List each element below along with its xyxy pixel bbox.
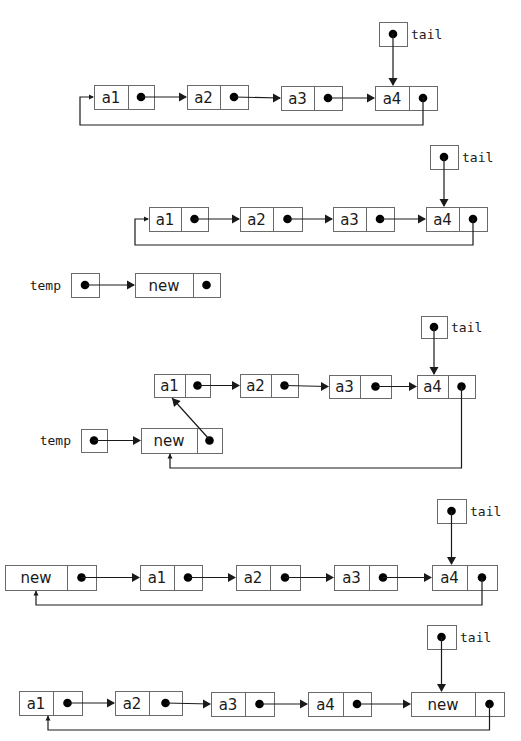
arrowhead-icon — [228, 573, 236, 582]
arrowhead-icon — [430, 367, 439, 375]
linked-list-diagram-canvas: a1a2a3a4taila1a2a3a4newtailtempa1a2a3a4n… — [0, 0, 521, 741]
arrowhead-icon — [168, 454, 173, 459]
node-data-label: a1 — [160, 377, 179, 395]
list-node-a4: a4 — [418, 375, 476, 399]
arrowhead-icon — [232, 215, 240, 224]
node-data-label: a3 — [335, 378, 354, 396]
node-data-label: new — [20, 569, 51, 587]
node-data-label: a1 — [102, 89, 121, 107]
node-data-label: a2 — [244, 569, 263, 587]
node-data-label: new — [148, 277, 179, 295]
arrowhead-icon — [144, 217, 149, 222]
node-data-label: a2 — [246, 377, 265, 395]
tail-pointer: tail — [380, 23, 443, 87]
arrowhead-icon — [403, 700, 411, 709]
arrowhead-icon — [107, 699, 115, 708]
node-data-label: a3 — [219, 696, 238, 714]
arrowhead-icon — [326, 573, 334, 582]
node-data-label: a1 — [156, 211, 175, 229]
tail-label: tail — [470, 504, 501, 519]
node-data-label: a1 — [27, 695, 46, 713]
list-node-new: new — [412, 692, 505, 717]
tail-pointer: tail — [431, 146, 494, 208]
node-data-label: a3 — [342, 569, 361, 587]
diagram-step2-create-temp: a1a2a3a4newtailtemp — [30, 146, 494, 298]
temp-pointer: temp — [30, 274, 135, 298]
node-data-label: a4 — [433, 211, 452, 229]
arrowhead-icon — [179, 93, 187, 102]
node-data-label: a4 — [440, 569, 459, 587]
arrowhead-icon — [132, 573, 140, 582]
arrowhead-icon — [409, 382, 417, 391]
node-data-label: a3 — [340, 211, 359, 229]
node-data-label: a2 — [247, 211, 266, 229]
list-node-new: new — [142, 428, 223, 454]
arrowhead-icon — [89, 95, 94, 100]
node-data-label: new — [153, 432, 184, 450]
arrowhead-icon — [46, 716, 51, 721]
tail-label: tail — [462, 150, 493, 165]
node-data-label: a3 — [288, 90, 307, 108]
arrowhead-icon — [418, 215, 426, 224]
arrowhead-icon — [389, 78, 398, 86]
tail-pointer: tail — [438, 500, 502, 566]
temp-pointer: temp — [40, 430, 141, 453]
tail-label: tail — [460, 630, 491, 645]
arrowhead-icon — [203, 700, 211, 709]
list-node-a4: a4 — [427, 207, 488, 232]
node-data-label: new — [427, 696, 458, 714]
arrowhead-icon — [321, 382, 329, 391]
node-data-label: a4 — [383, 90, 402, 108]
temp-label: temp — [30, 278, 61, 293]
temp-label: temp — [40, 433, 71, 448]
node-data-label: a1 — [148, 569, 167, 587]
arrowhead-icon — [127, 281, 135, 290]
arrowhead-icon — [437, 684, 446, 692]
arrowhead-icon — [232, 381, 240, 390]
tail-label: tail — [411, 27, 442, 42]
node-data-label: a2 — [194, 89, 213, 107]
list-node-new: new — [136, 273, 221, 298]
arrowhead-icon — [447, 557, 456, 565]
diagram-step5-tail-updated: a1a2a3a4newtail — [20, 626, 505, 731]
node-data-label: a4 — [423, 378, 442, 396]
arrowhead-icon — [325, 215, 333, 224]
list-node-a4: a4 — [433, 565, 498, 591]
next-pointer-dot-icon — [205, 436, 214, 445]
list-node-a4: a4 — [376, 86, 438, 111]
arrowhead-icon — [34, 591, 39, 596]
diagram-step4-new-first: newa1a2a3a4tail — [6, 500, 502, 606]
arrowhead-icon — [440, 199, 449, 207]
node-data-label: a4 — [316, 696, 335, 714]
tail-pointer: tail — [422, 317, 483, 376]
arrowhead-icon — [133, 436, 141, 445]
tail-label: tail — [451, 320, 482, 335]
diagram-step1-initial: a1a2a3a4tail — [80, 23, 442, 126]
arrowhead-icon — [273, 94, 281, 103]
next-pointer-dot-icon — [202, 281, 211, 290]
arrowhead-icon — [300, 700, 308, 709]
diagram-step3-link-new: a1a2a3a4newtailtemp — [40, 317, 483, 469]
tail-pointer: tail — [428, 626, 492, 693]
arrowhead-icon — [367, 94, 375, 103]
arrowhead-icon — [424, 573, 432, 582]
node-data-label: a2 — [123, 695, 142, 713]
